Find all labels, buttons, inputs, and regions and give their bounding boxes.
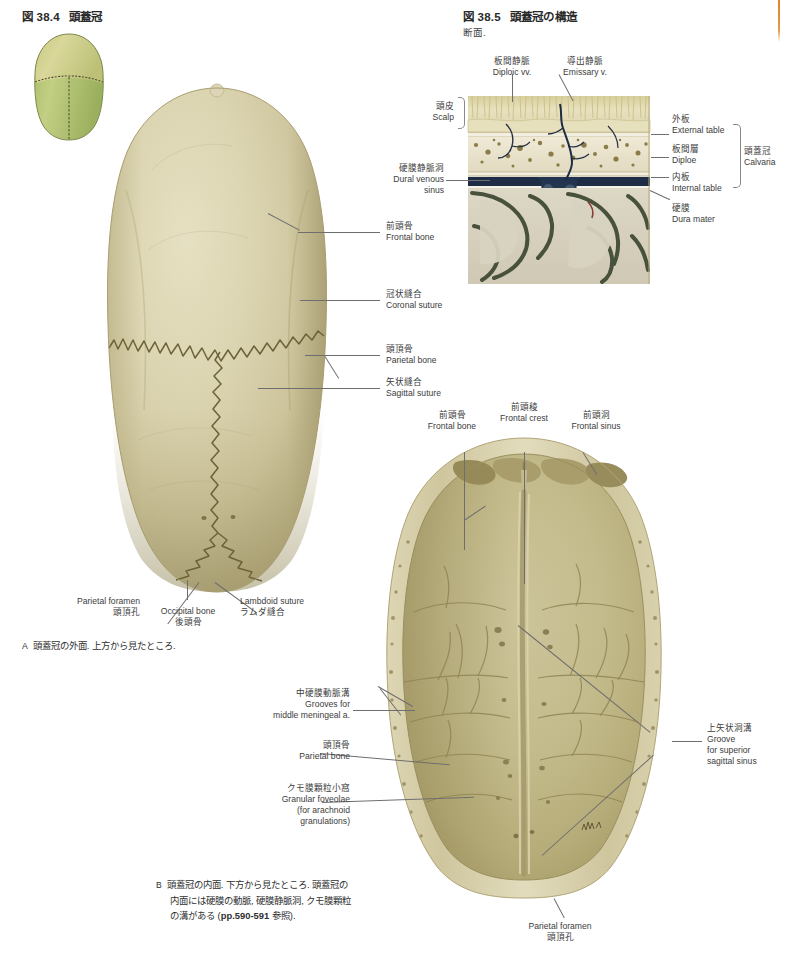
bracket-scalp [458, 97, 465, 129]
label-calvaria-en: Calvaria [744, 157, 776, 168]
textbook-page: 図 38.4頭蓋冠 [0, 0, 786, 959]
label-occipital-bone-a: Occipital bone 後頭骨 [146, 606, 230, 628]
label-external-table: 外板 External table [672, 114, 725, 136]
leader-middle-meningeal-b [353, 710, 415, 711]
label-internal-table: 内板 Internal table [672, 172, 722, 194]
label-frontal-sinus-b-jp: 前頭洞 [548, 410, 644, 421]
caption-a: A頭蓋冠の外面. 上方から見たところ. [22, 638, 176, 654]
label-dural-venous-sinus-en1: Dural venous [372, 174, 444, 185]
caption-b-marker: B [156, 880, 162, 890]
page-edge-accent-rule [778, 0, 780, 42]
label-granular-foveolae-b-en2: (for arachnoid [200, 805, 350, 816]
label-superior-sagittal-sinus-groove-b-en1: Groove [707, 734, 757, 745]
label-coronal-suture-a-jp: 冠状縫合 [386, 289, 442, 300]
label-parietal-foramen-b-en: Parietal foramen [500, 921, 620, 932]
label-superior-sagittal-sinus-groove-b-jp: 上矢状洞溝 [707, 723, 757, 734]
label-occipital-bone-a-en: Occipital bone [146, 606, 230, 617]
figure-38-5-title: 頭蓋冠の構造 [510, 11, 577, 23]
label-granular-foveolae-b: クモ膜顆粒小窩 Granular foveolae (for arachnoid… [200, 783, 350, 827]
label-diploe: 板間層 Diploe [672, 144, 699, 166]
label-dura-mater: 硬膜 Dura mater [672, 203, 715, 225]
caption-a-marker: A [22, 641, 28, 651]
calvaria-cross-section-illustration [468, 96, 650, 284]
caption-b-line1: 頭蓋冠の内面. 下方から見たところ. 頭蓋冠の [167, 879, 348, 890]
caption-a-text: 頭蓋冠の外面. 上方から見たところ. [33, 640, 176, 651]
label-lambdoid-suture-a-en: Lambdoid suture [240, 596, 304, 607]
label-external-table-en: External table [672, 125, 725, 136]
label-sagittal-suture-a: 矢状縫合 Sagittal suture [386, 377, 441, 399]
label-middle-meningeal-grooves-b-en1: Grooves for [218, 699, 350, 710]
leader-frontal-bone-b [464, 452, 465, 550]
label-dural-venous-sinus: 硬膜静脈洞 Dural venous sinus [372, 163, 444, 196]
caption-b-line1-row: B頭蓋冠の内面. 下方から見たところ. 頭蓋冠の [156, 877, 426, 893]
caption-b-page-reference: pp.590-591 [221, 910, 269, 921]
label-coronal-suture-a: 冠状縫合 Coronal suture [386, 289, 442, 311]
label-parietal-foramen-b: Parietal foramen 頭頂孔 [500, 921, 620, 943]
label-middle-meningeal-grooves-b: 中硬膜動脈溝 Grooves for middle meningeal a. [218, 688, 350, 721]
label-granular-foveolae-b-en3: granulations) [200, 816, 350, 827]
label-frontal-bone-a: 前頭骨 Frontal bone [386, 221, 434, 243]
label-scalp-en: Scalp [398, 112, 454, 123]
leader-occipital-bone-a [187, 580, 188, 600]
figure-a-calvaria-superior-view [52, 80, 382, 600]
label-parietal-bone-a-en: Parietal bone [386, 355, 437, 366]
label-scalp-jp: 頭皮 [398, 101, 454, 112]
caption-b: B頭蓋冠の内面. 下方から見たところ. 頭蓋冠の 内面には硬膜の動脈, 硬膜静脈… [156, 877, 426, 923]
label-frontal-bone-a-en: Frontal bone [386, 232, 434, 243]
label-parietal-foramen-b-jp: 頭頂孔 [500, 932, 620, 943]
label-superior-sagittal-sinus-groove-b: 上矢状洞溝 Groove for superior sagittal sinus [707, 723, 757, 767]
leader-diploe [651, 157, 669, 158]
label-calvaria: 頭蓋冠 Calvaria [744, 146, 776, 168]
label-parietal-bone-b-en: Parietal bone [240, 751, 350, 762]
label-dura-mater-en: Dura mater [672, 214, 715, 225]
leader-frontal-crest-b [524, 452, 525, 584]
leader-sagittal-sinus-groove-b [672, 741, 702, 742]
label-frontal-bone-a-jp: 前頭骨 [386, 221, 434, 232]
caption-b-line3-post: 参照). [269, 910, 295, 921]
leader-sagittal-suture-a [258, 388, 380, 389]
label-internal-table-jp: 内板 [672, 172, 722, 183]
label-parietal-foramen-a-jp: 頭頂孔 [52, 607, 140, 618]
figure-38-4-title: 頭蓋冠 [69, 11, 103, 23]
caption-b-line3-pre: の溝がある ( [170, 910, 221, 921]
label-external-table-jp: 外板 [672, 114, 725, 125]
label-granular-foveolae-b-jp: クモ膜顆粒小窩 [200, 783, 350, 794]
label-emissary-vein: 導出静脈 Emissary v. [535, 56, 635, 78]
label-calvaria-jp: 頭蓋冠 [744, 146, 776, 157]
leader-external-table [651, 134, 669, 135]
label-parietal-foramen-a-en: Parietal foramen [52, 596, 140, 607]
label-dural-venous-sinus-en2: sinus [372, 185, 444, 196]
label-diploe-jp: 板間層 [672, 144, 699, 155]
label-parietal-bone-b: 頭頂骨 Parietal bone [240, 740, 350, 762]
leader-frontal-bone-a [298, 232, 380, 233]
figure-38-5-number: 図 38.5 [463, 11, 501, 23]
leader-diploic-veins [512, 74, 513, 102]
label-emissary-vein-en: Emissary v. [535, 67, 635, 78]
label-internal-table-en: Internal table [672, 183, 722, 194]
label-parietal-foramen-a: Parietal foramen 頭頂孔 [52, 596, 140, 618]
label-granular-foveolae-b-en1: Granular foveolae [200, 794, 350, 805]
label-dura-mater-jp: 硬膜 [672, 203, 715, 214]
label-emissary-vein-jp: 導出静脈 [535, 56, 635, 67]
figure-38-5-heading: 図 38.5頭蓋冠の構造 [463, 8, 577, 24]
label-dural-venous-sinus-jp: 硬膜静脈洞 [372, 163, 444, 174]
caption-b-line2: 内面には硬膜の動脈, 硬膜静脈洞, クモ膜顆粒 [156, 893, 426, 908]
label-sagittal-suture-a-jp: 矢状縫合 [386, 377, 441, 388]
label-superior-sagittal-sinus-groove-b-en3: sagittal sinus [707, 756, 757, 767]
label-middle-meningeal-grooves-b-jp: 中硬膜動脈溝 [218, 688, 350, 699]
label-lambdoid-suture-a-jp: ラムダ縫合 [240, 607, 304, 618]
label-sagittal-suture-a-en: Sagittal suture [386, 388, 441, 399]
label-parietal-bone-a-jp: 頭頂骨 [386, 344, 437, 355]
label-middle-meningeal-grooves-b-en2: middle meningeal a. [218, 710, 350, 721]
leader-parietal-bone-a [305, 355, 380, 356]
figure-38-4-number: 図 38.4 [22, 11, 60, 23]
label-scalp: 頭皮 Scalp [398, 101, 454, 123]
figure-38-4-heading: 図 38.4頭蓋冠 [22, 8, 102, 24]
leader-dural-venous-sinus [446, 180, 490, 181]
label-diploe-en: Diploe [672, 155, 699, 166]
label-parietal-bone-b-jp: 頭頂骨 [240, 740, 350, 751]
bracket-calvaria [733, 124, 741, 188]
leader-coronal-suture-a [300, 300, 380, 301]
label-frontal-sinus-b-en: Frontal sinus [548, 421, 644, 432]
figure-38-5-subtitle: 断面. [463, 25, 486, 39]
